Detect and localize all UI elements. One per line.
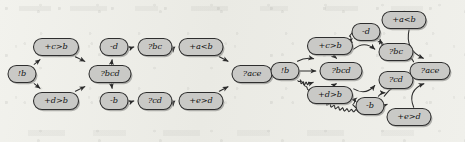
graph-node[interactable]: +a<b [179, 39, 225, 58]
node-label: +a<b [392, 14, 415, 24]
graph-node[interactable]: +e>d [179, 93, 225, 112]
graph-node[interactable]: ?bcd [89, 66, 133, 85]
graph-node[interactable]: !b [271, 63, 301, 82]
graph-canvas: !b+c>b+d>b?bcd-d-b?bc?cd+a<b+e>d?ace!b+c… [0, 0, 465, 142]
graph-node[interactable]: +c>b [34, 39, 81, 58]
graph-node[interactable]: +c>b [308, 38, 355, 57]
graph-node[interactable]: +e>d [387, 109, 433, 128]
graph-edge [34, 60, 40, 65]
graph-edge [111, 84, 112, 89]
node-label: -b [110, 95, 118, 105]
node-label: -d [110, 41, 118, 51]
node-label: -b [366, 100, 374, 110]
node-label: ?bc [148, 41, 162, 51]
node-label: +e>d [397, 111, 420, 121]
graph-edge [111, 60, 112, 65]
node-label: +e>d [189, 95, 212, 105]
node-label: ?ace [421, 65, 440, 75]
graph-edge [75, 87, 84, 92]
node-label: ?bcd [331, 65, 350, 75]
graph-node[interactable]: +d>b [34, 93, 81, 112]
graph-node[interactable]: ?ace [410, 63, 452, 82]
graph-node[interactable]: ?bcd [320, 63, 364, 82]
graph-edge [34, 84, 40, 89]
node-label: +d>b [318, 89, 342, 99]
node-label: ?cd [389, 74, 403, 84]
node-label: !b [18, 68, 26, 78]
graph-node[interactable]: -d [100, 39, 130, 58]
graph-edge [354, 45, 375, 50]
graph-node[interactable]: -d [352, 24, 382, 43]
graph-edge [219, 87, 228, 92]
node-label: ?ace [243, 68, 262, 78]
graph-edge [75, 57, 84, 62]
graph-edge [298, 81, 313, 85]
node-label: ?cd [148, 95, 162, 105]
node-label: +c>b [44, 41, 67, 51]
node-label: +a<b [189, 41, 212, 51]
graph-node[interactable]: ?bc [379, 44, 415, 63]
graph-node[interactable]: ?cd [379, 72, 415, 91]
graph-node[interactable]: ?bc [138, 39, 174, 58]
graph-node[interactable]: +d>b [308, 87, 355, 106]
graph-edge [334, 84, 337, 86]
graph-node[interactable]: -b [100, 93, 130, 112]
graph-edge [297, 58, 313, 61]
node-label: ?bc [389, 46, 403, 56]
graph-node[interactable]: -b [356, 98, 386, 117]
node-label: ?bcd [100, 68, 119, 78]
node-label: +c>b [318, 40, 341, 50]
node-label: +d>b [44, 95, 68, 105]
graph-node[interactable]: !b [8, 66, 38, 85]
graph-edge [412, 84, 424, 108]
graph-edge [354, 85, 375, 91]
graph-node[interactable]: ?ace [232, 66, 274, 85]
node-label: -d [362, 26, 370, 36]
nodes-layer: !b+c>b+d>b?bcd-d-b?bc?cd+a<b+e>d?ace!b+c… [8, 12, 452, 128]
graph-node[interactable]: +a<b [382, 12, 428, 31]
graph-node[interactable]: ?cd [138, 93, 174, 112]
graph-edge [219, 57, 228, 62]
node-label: !b [281, 65, 289, 75]
